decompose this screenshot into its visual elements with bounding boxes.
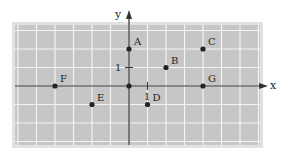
point-origin <box>126 83 131 88</box>
point-b <box>163 65 168 70</box>
point-g <box>200 83 205 88</box>
x-axis-arrow-icon <box>259 83 268 89</box>
point-a <box>126 46 131 51</box>
coordinate-plane: x y 1 1 ABCDEFG <box>0 0 281 157</box>
point-c <box>200 46 205 51</box>
point-e <box>89 102 94 107</box>
point-label-g: G <box>208 73 216 84</box>
x-tick-label: 1 <box>144 91 150 102</box>
y-tick-label: 1 <box>115 62 121 73</box>
point-label-e: E <box>97 92 104 103</box>
point-label-d: D <box>153 92 161 103</box>
point-label-c: C <box>208 36 216 47</box>
x-axis-label: x <box>270 79 277 92</box>
point-d <box>145 102 150 107</box>
point-label-f: F <box>60 73 67 84</box>
y-axis-arrow-icon <box>126 10 132 19</box>
point-label-b: B <box>171 55 178 66</box>
point-f <box>52 83 57 88</box>
y-axis-label: y <box>114 8 122 21</box>
point-label-a: A <box>133 36 142 47</box>
